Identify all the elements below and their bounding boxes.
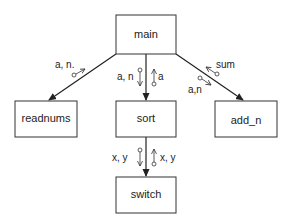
- module-readnums-label: readnums: [22, 112, 71, 124]
- module-sort: sort: [116, 101, 176, 137]
- module-main-label: main: [134, 28, 158, 40]
- module-switch: switch: [116, 177, 176, 213]
- data-couple-down-icon: [138, 148, 142, 166]
- data-couple-up-icon: [152, 69, 156, 86]
- module-switch-label: switch: [131, 188, 162, 200]
- param-sort-down: a, n: [117, 71, 134, 82]
- data-couple-up-icon: [152, 149, 156, 166]
- data-couple-down-icon: [138, 68, 142, 86]
- module-sort-label: sort: [137, 112, 155, 124]
- module-main: main: [116, 15, 176, 54]
- module-add-n: add_n: [215, 101, 277, 137]
- param-add-n-up: sum: [216, 59, 235, 70]
- param-sort-up: a: [158, 71, 164, 82]
- param-switch-up: x, y: [160, 152, 176, 163]
- data-couple-icon: [72, 69, 85, 77]
- param-readnums-down: a, n.: [55, 59, 74, 70]
- structure-chart: main readnums sort add_n switch a, n. a,…: [0, 0, 288, 224]
- param-add-n-down: a,n: [188, 84, 202, 95]
- module-readnums: readnums: [15, 101, 77, 137]
- param-switch-down: x, y: [112, 152, 128, 163]
- module-add-n-label: add_n: [231, 114, 262, 126]
